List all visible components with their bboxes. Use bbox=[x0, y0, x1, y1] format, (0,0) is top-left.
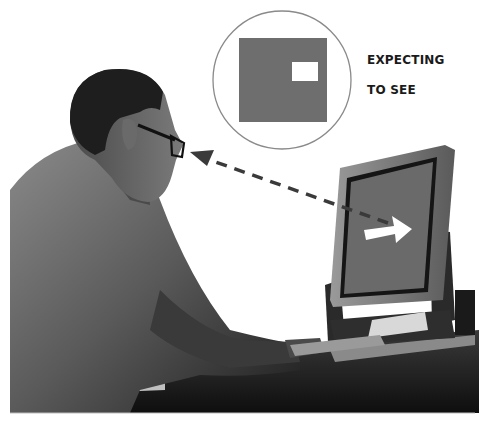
caption-line-2: TO SEE bbox=[367, 83, 445, 98]
expectation-bubble bbox=[213, 11, 351, 149]
arrowhead-icon bbox=[190, 150, 214, 166]
caption-line-1: EXPECTING bbox=[367, 53, 445, 68]
expected-highlight bbox=[292, 62, 318, 81]
caption-expecting-to-see: EXPECTING TO SEE bbox=[367, 38, 445, 113]
monitor bbox=[325, 145, 455, 345]
